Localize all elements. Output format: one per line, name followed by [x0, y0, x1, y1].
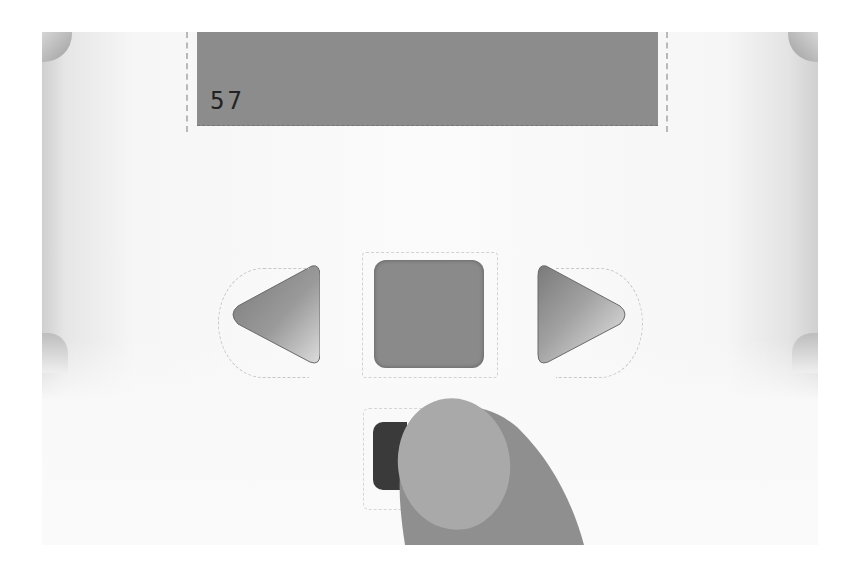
left-button-outline [218, 268, 309, 378]
lcd-screen: 57 [197, 32, 658, 126]
device-side-notch-right [792, 333, 818, 373]
right-button-outline [556, 268, 643, 378]
screen-value: 57 [210, 87, 245, 115]
back-button[interactable] [373, 422, 407, 490]
center-button[interactable] [374, 260, 484, 368]
